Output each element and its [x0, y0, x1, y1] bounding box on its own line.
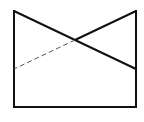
geometric-figure — [0, 0, 144, 122]
diagonal-top-right-to-intersection — [75, 11, 136, 40]
diagram-canvas — [0, 0, 144, 122]
hidden-dashed-line — [14, 40, 75, 69]
